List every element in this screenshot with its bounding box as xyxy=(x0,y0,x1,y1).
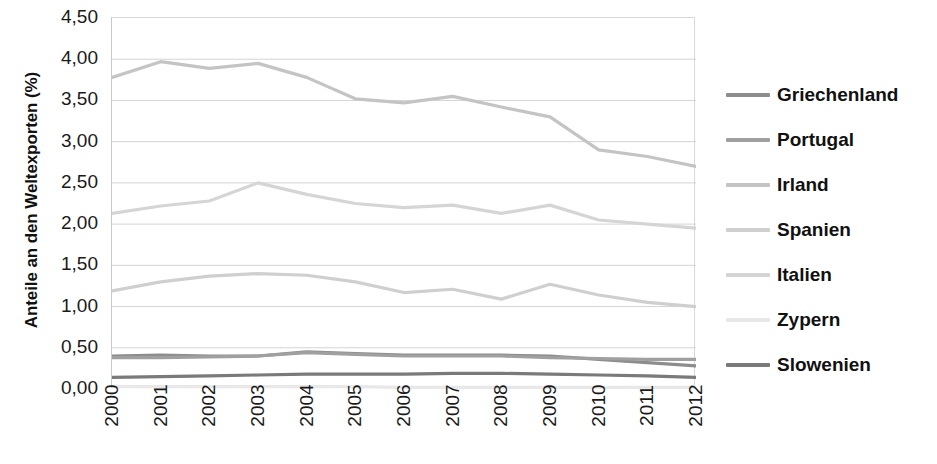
y-tick-label: 4,50 xyxy=(61,7,98,26)
y-tick-label: 2,00 xyxy=(61,213,98,232)
plot-area xyxy=(111,17,695,388)
legend-item-portugal[interactable]: Portugal xyxy=(726,117,937,162)
x-tick-label: 2006 xyxy=(394,371,413,441)
y-tick-label: 1,00 xyxy=(61,296,98,315)
y-tick-label: 4,00 xyxy=(61,48,98,67)
legend-swatch-icon xyxy=(726,93,770,97)
x-tick-label: 2012 xyxy=(686,371,705,441)
legend-item-irland[interactable]: Irland xyxy=(726,162,937,207)
x-tick-label: 2002 xyxy=(199,371,218,441)
legend-swatch-icon xyxy=(726,318,770,322)
legend-item-spanien[interactable]: Spanien xyxy=(726,207,937,252)
x-tick-label: 2000 xyxy=(102,371,121,441)
legend-label: Spanien xyxy=(777,220,851,239)
x-tick-label: 2008 xyxy=(491,371,510,441)
y-tick-label: 2,50 xyxy=(61,172,98,191)
legend-swatch-icon xyxy=(726,228,770,232)
x-tick-label: 2009 xyxy=(540,371,559,441)
series-line-spanien xyxy=(112,274,696,307)
y-axis-tick-labels: 0,000,501,001,502,002,503,003,504,004,50 xyxy=(34,0,104,464)
legend-item-slowenien[interactable]: Slowenien xyxy=(726,342,937,387)
legend-item-italien[interactable]: Italien xyxy=(726,252,937,297)
legend-label: Italien xyxy=(777,265,832,284)
legend-label: Irland xyxy=(777,175,829,194)
legend-label: Slowenien xyxy=(777,355,871,374)
x-tick-label: 2011 xyxy=(637,371,656,441)
y-tick-label: 0,00 xyxy=(61,378,98,397)
x-tick-label: 2004 xyxy=(296,371,315,441)
y-tick-label: 3,50 xyxy=(61,89,98,108)
legend-swatch-icon xyxy=(726,363,770,367)
line-chart: Anteile an den Weltexporten (%) 0,000,50… xyxy=(0,0,937,464)
y-tick-label: 1,50 xyxy=(61,254,98,273)
legend-item-zypern[interactable]: Zypern xyxy=(726,297,937,342)
legend-swatch-icon xyxy=(726,273,770,277)
x-tick-label: 2003 xyxy=(248,371,267,441)
legend-label: Griechenland xyxy=(777,85,898,104)
x-tick-label: 2005 xyxy=(345,371,364,441)
y-tick-label: 0,50 xyxy=(61,337,98,356)
x-tick-label: 2010 xyxy=(588,371,607,441)
x-axis-tick-labels: 2000200120022003200420052006200720082009… xyxy=(111,388,695,464)
series-line-irland xyxy=(112,62,696,167)
plot-svg xyxy=(112,18,696,389)
legend-item-griechenland[interactable]: Griechenland xyxy=(726,72,937,117)
x-tick-label: 2007 xyxy=(442,371,461,441)
legend-swatch-icon xyxy=(726,183,770,187)
legend-label: Zypern xyxy=(777,310,840,329)
y-tick-label: 3,00 xyxy=(61,131,98,150)
legend-label: Portugal xyxy=(777,130,854,149)
legend-swatch-icon xyxy=(726,138,770,142)
x-tick-label: 2001 xyxy=(150,371,169,441)
series-line-italien xyxy=(112,183,696,228)
chart-legend: GriechenlandPortugalIrlandSpanienItalien… xyxy=(726,72,937,387)
